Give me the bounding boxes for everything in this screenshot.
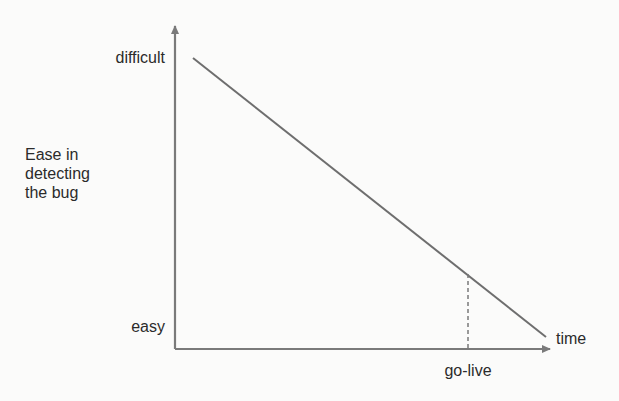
y-axis-label-line-2: detecting	[25, 164, 125, 183]
y-tick-easy: easy	[60, 317, 165, 336]
y-axis-label: Ease in detecting the bug	[25, 145, 125, 202]
y-tick-difficult: difficult	[60, 48, 165, 67]
go-live-label: go-live	[418, 361, 518, 380]
x-axis-label: time	[556, 329, 586, 348]
y-axis-label-line-1: Ease in	[25, 145, 125, 164]
y-axis-label-line-3: the bug	[25, 183, 125, 202]
trend-line	[193, 58, 546, 337]
